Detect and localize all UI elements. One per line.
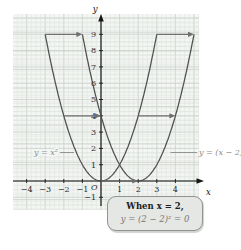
y-tick-label: 8 [91,46,96,55]
x-tick-label: −2 [58,185,70,194]
x-tick-label: 1 [117,185,122,194]
curve-label-left: y = x² [33,148,58,157]
y-tick-label: −1 [84,193,96,202]
x-axis-arrowhead [197,178,205,184]
y-tick-label: 3 [91,128,96,137]
origin-label: O [91,183,98,192]
callout: When x = 2, y = (2 − 2)² = 0 [107,196,203,231]
y-tick-label: 2 [91,144,96,153]
graph-figure: xy−4−3−2−11234−1123456789Oy = x²y = (x −… [0,0,241,250]
y-tick-label: 7 [91,63,96,72]
x-tick-label: −3 [39,185,51,194]
y-tick-label: 1 [91,161,96,170]
x-axis-label: x [206,187,211,197]
x-tick-label: 2 [136,185,141,194]
y-axis-label: y [92,4,98,14]
y-tick-label: 5 [91,95,96,104]
callout-line1: When x = 2, [110,200,200,213]
curve-label-right: y = (x − 2)² [198,148,241,157]
x-tick-label: 4 [173,185,178,194]
y-tick-label: 9 [91,30,96,39]
x-tick-label: −4 [21,185,33,194]
callout-line2: y = (2 − 2)² = 0 [110,213,200,226]
x-tick-label: 3 [154,185,159,194]
